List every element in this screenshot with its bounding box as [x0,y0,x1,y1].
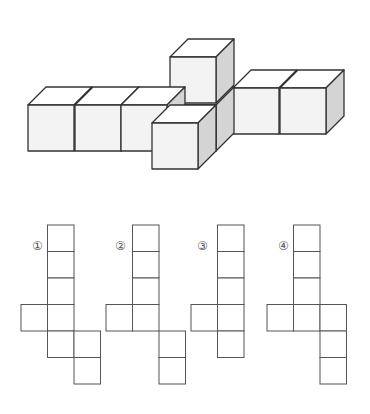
net-square [218,331,245,358]
net-square [320,305,347,332]
net-square [133,305,160,332]
net-square [294,225,321,252]
net-square [48,278,75,305]
net-square [320,331,347,358]
option-4-label: ④ [278,240,289,252]
net-square [294,305,321,332]
net-square [74,331,101,358]
net-square [218,305,245,332]
net-square [294,252,321,279]
net-square [267,305,294,332]
net-square [133,252,160,279]
net-square [294,278,321,305]
option-2-label: ② [115,240,126,252]
net-square [218,278,245,305]
net-square [48,305,75,332]
net-square [74,358,101,385]
net-square [218,252,245,279]
net-square [106,305,133,332]
option-1-label: ① [32,240,43,252]
net-square [48,225,75,252]
net-square [133,225,160,252]
net-square [191,305,218,332]
net-square [320,358,347,385]
net-options [0,0,370,414]
option-3-label: ③ [197,240,208,252]
net-square [159,331,186,358]
net-square [159,358,186,385]
net-square [133,278,160,305]
net-square [48,252,75,279]
net-square [218,225,245,252]
net-square [21,305,48,332]
net-square [48,331,75,358]
